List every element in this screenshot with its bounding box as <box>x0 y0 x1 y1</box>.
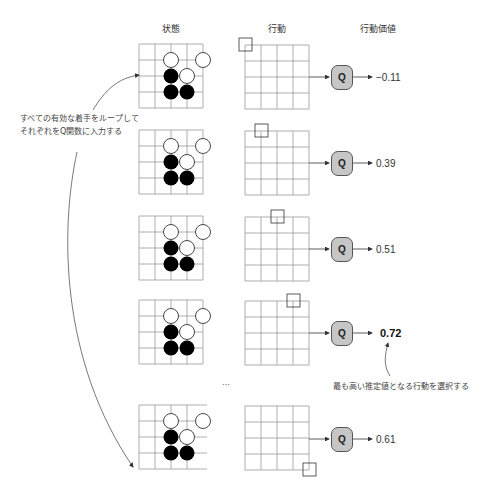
action-board-1 <box>245 45 309 109</box>
loop-arrow-top <box>93 75 139 110</box>
loop-arrow-bottom <box>68 152 133 467</box>
black-stone <box>180 171 195 186</box>
white-stone <box>180 325 195 340</box>
selected-action-marker <box>271 210 284 223</box>
action-board-3 <box>245 217 309 281</box>
white-stone <box>196 225 211 240</box>
black-stone <box>164 69 179 84</box>
black-stone <box>164 155 179 170</box>
black-stone <box>164 325 179 340</box>
white-stone <box>180 155 195 170</box>
black-stone <box>164 430 179 445</box>
white-stone <box>164 139 179 154</box>
action-board-2 <box>245 131 309 195</box>
black-stone <box>164 341 179 356</box>
selected-action-marker <box>239 38 252 51</box>
black-stone <box>180 85 195 100</box>
black-stone <box>180 341 195 356</box>
black-stone <box>164 85 179 100</box>
white-stone <box>164 309 179 324</box>
black-stone <box>164 241 179 256</box>
white-stone <box>164 414 179 429</box>
black-stone <box>164 171 179 186</box>
action-board-4 <box>245 301 309 365</box>
black-stone <box>180 446 195 461</box>
selected-action-marker <box>287 294 300 307</box>
white-stone <box>196 53 211 68</box>
white-stone <box>164 225 179 240</box>
white-stone <box>196 414 211 429</box>
black-stone <box>180 257 195 272</box>
white-stone <box>180 430 195 445</box>
black-stone <box>164 257 179 272</box>
white-stone <box>180 241 195 256</box>
black-stone <box>164 446 179 461</box>
action-board-5 <box>245 406 309 470</box>
diagram-canvas <box>0 0 497 496</box>
white-stone <box>180 69 195 84</box>
select-arrow <box>385 343 390 376</box>
selected-action-marker <box>303 463 316 476</box>
selected-action-marker <box>255 124 268 137</box>
white-stone <box>164 53 179 68</box>
white-stone <box>196 139 211 154</box>
white-stone <box>196 309 211 324</box>
boards-layer <box>139 38 372 476</box>
